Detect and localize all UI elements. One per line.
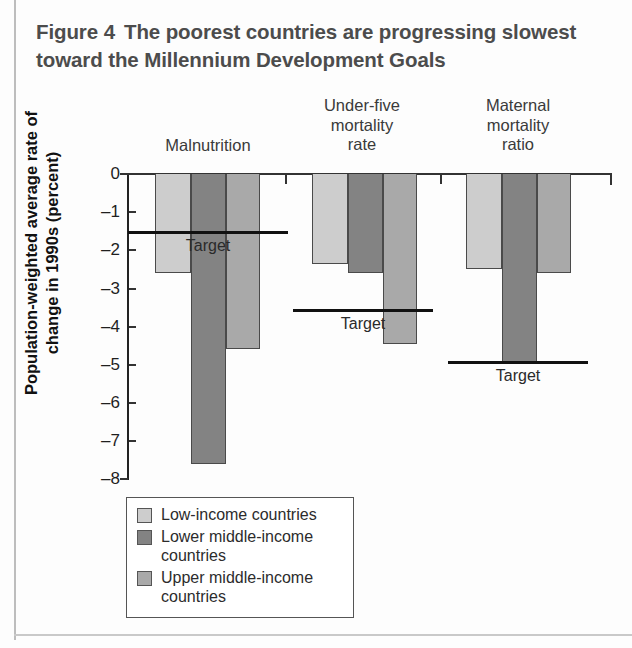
bar-under-five-mortality-low-income <box>312 174 348 264</box>
y-tick-8 <box>120 478 128 480</box>
legend-label-lower-middle-income: Lower middle-income countries <box>161 527 345 566</box>
legend-label-upper-middle-income: Upper middle-income countries <box>161 568 345 607</box>
target-label-malnutrition: Target <box>158 237 258 255</box>
axis-stub-group1-end <box>285 175 287 184</box>
legend-swatch-upper-middle-income <box>137 571 152 586</box>
axis-end-cap <box>610 175 612 185</box>
y-tick-label-2: –2 <box>12 241 120 258</box>
target-line-maternal-mortality <box>448 361 588 364</box>
y-tick-label-1: –1 <box>12 203 120 220</box>
bar-maternal-mortality-low-income <box>466 174 502 269</box>
y-tick-4 <box>129 326 136 328</box>
y-tick-1 <box>129 211 136 213</box>
group-header-under-five-mortality-rate: Under-five mortality rate <box>292 96 432 155</box>
y-tick-2 <box>129 249 136 251</box>
y-tick-6 <box>129 402 136 404</box>
y-tick-label-3: –3 <box>12 280 120 297</box>
y-tick-label-7: –7 <box>12 432 120 449</box>
figure-page: Figure 4The poorest countries are progre… <box>0 0 632 648</box>
group-header-malnutrition: Malnutrition <box>128 136 288 156</box>
y-tick-label-0: 0 <box>12 165 120 182</box>
legend-swatch-low-income <box>137 508 152 523</box>
bar-maternal-mortality-lower-middle-income <box>502 174 537 363</box>
bar-maternal-mortality-upper-middle-income <box>537 174 571 273</box>
y-tick-0 <box>120 173 128 175</box>
y-tick-5 <box>129 364 136 366</box>
bar-malnutrition-upper-middle-income <box>226 174 260 349</box>
y-tick-3 <box>129 288 136 290</box>
legend-swatch-lower-middle-income <box>137 530 152 545</box>
target-label-under-five-mortality: Target <box>313 315 413 333</box>
legend-item-low-income: Low-income countries <box>137 505 345 525</box>
y-tick-7 <box>129 440 136 442</box>
legend-item-upper-middle-income: Upper middle-income countries <box>137 568 345 607</box>
group-header-maternal-mortality-ratio: Maternal mortality ratio <box>448 96 588 155</box>
bar-malnutrition-lower-middle-income <box>191 174 226 464</box>
legend-label-low-income: Low-income countries <box>161 505 317 525</box>
axis-stub-group2-end <box>440 175 442 184</box>
y-tick-label-4: –4 <box>12 318 120 335</box>
y-tick-label-6: –6 <box>12 394 120 411</box>
legend-item-lower-middle-income: Lower middle-income countries <box>137 527 345 566</box>
bar-under-five-mortality-lower-middle-income <box>348 174 383 273</box>
bar-malnutrition-low-income <box>155 174 191 273</box>
target-label-maternal-mortality: Target <box>468 367 568 385</box>
target-line-malnutrition <box>128 231 288 234</box>
chart-legend: Low-income countries Lower middle-income… <box>126 497 354 618</box>
target-line-under-five-mortality <box>293 309 433 312</box>
y-tick-label-8: –8 <box>12 470 120 487</box>
y-tick-label-5: –5 <box>12 356 120 373</box>
